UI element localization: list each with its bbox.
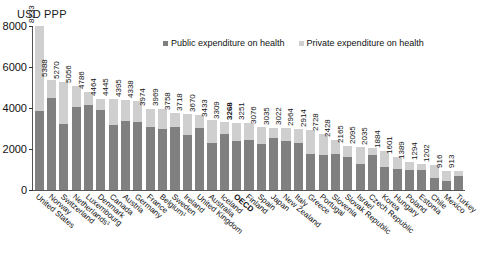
stacked-bar[interactable]: 3974 xyxy=(146,109,155,190)
bar-value-label: 2914 xyxy=(300,109,308,127)
stacked-bar[interactable]: 3076 xyxy=(257,127,266,190)
bar-slot[interactable]: 4786 xyxy=(82,26,94,190)
x-axis-line xyxy=(32,190,465,191)
stacked-bar[interactable]: 2095 xyxy=(356,147,365,190)
bar-slot[interactable]: 5388 xyxy=(45,26,57,190)
stacked-bar[interactable]: 916 xyxy=(442,171,451,190)
bar-slot[interactable]: 4445 xyxy=(107,26,119,190)
bar-slot[interactable]: 2165 xyxy=(342,26,354,190)
stacked-bar[interactable]: 5270 xyxy=(59,82,68,190)
bar-slot[interactable]: 4395 xyxy=(119,26,131,190)
stacked-bar[interactable]: 3969 xyxy=(158,109,167,190)
bar-slot[interactable]: 2095 xyxy=(354,26,366,190)
stacked-bar[interactable]: 5388 xyxy=(47,80,56,190)
stacked-bar[interactable]: 3670 xyxy=(195,115,204,190)
bar-value-label: 3309 xyxy=(213,101,221,119)
bar-segment-public xyxy=(195,128,204,190)
bar-value-label: 3268 xyxy=(226,102,234,120)
x-axis-category-label: Turkey xyxy=(454,193,478,215)
stacked-bar[interactable]: 1884 xyxy=(380,151,389,190)
bar-slot[interactable]: 2035 xyxy=(366,26,378,190)
bar-value-label: 2165 xyxy=(337,125,345,143)
bar-slot[interactable]: 4338 xyxy=(132,26,144,190)
stacked-bar[interactable]: 8233 xyxy=(35,26,44,190)
stacked-bar[interactable]: 2428 xyxy=(331,140,340,190)
bar-slot[interactable]: 4464 xyxy=(95,26,107,190)
stacked-bar[interactable]: 1294 xyxy=(417,163,426,190)
stacked-bar[interactable]: 913 xyxy=(454,171,463,190)
x-label-slot: Israel xyxy=(354,192,366,262)
bar-value-label: 1294 xyxy=(411,143,419,161)
bar-slot[interactable]: 2428 xyxy=(329,26,341,190)
stacked-bar[interactable]: 2165 xyxy=(343,146,352,190)
bar-segment-public xyxy=(35,111,44,190)
bar-slot[interactable]: 1389 xyxy=(403,26,415,190)
bar-value-label: 2035 xyxy=(361,128,369,146)
bar-slot[interactable]: 2728 xyxy=(317,26,329,190)
bar-segment-private xyxy=(146,109,155,127)
bar-segment-public xyxy=(405,170,414,190)
x-label-slot: Slovenia xyxy=(329,192,341,262)
bar-value-label: 4338 xyxy=(127,80,135,98)
bar-segment-public xyxy=(59,124,68,190)
stacked-bar[interactable]: 3035 xyxy=(269,128,278,190)
bar-slot[interactable]: 3974 xyxy=(144,26,156,190)
bar-segment-private xyxy=(121,100,130,121)
bar-slot[interactable]: 2914 xyxy=(305,26,317,190)
bar-segment-private xyxy=(207,120,216,143)
x-label-slot: Portugal xyxy=(317,192,329,262)
stacked-bar[interactable]: 2728 xyxy=(319,134,328,190)
stacked-bar[interactable]: 1202 xyxy=(430,165,439,190)
bar-slot[interactable]: 5270 xyxy=(58,26,70,190)
stacked-bar[interactable]: 3022 xyxy=(281,128,290,190)
bar-segment-public xyxy=(133,122,142,190)
stacked-bar[interactable]: 2964 xyxy=(294,129,303,190)
bar-value-label: 3718 xyxy=(176,93,184,111)
x-label-slot: Japan xyxy=(268,192,280,262)
x-label-slot: Finland xyxy=(243,192,255,262)
bar-segment-public xyxy=(220,134,229,190)
bar-slot[interactable]: 1884 xyxy=(379,26,391,190)
bar-slot[interactable]: 5056 xyxy=(70,26,82,190)
bar-slot[interactable]: 2964 xyxy=(292,26,304,190)
x-label-slot: Denmark xyxy=(95,192,107,262)
stacked-bar[interactable]: 1601 xyxy=(393,157,402,190)
stacked-bar[interactable]: 3309 xyxy=(220,122,229,190)
stacked-bar[interactable]: 1389 xyxy=(405,162,414,190)
bar-segment-public xyxy=(109,125,118,190)
bar-segment-public xyxy=(281,141,290,190)
bar-segment-public xyxy=(269,138,278,190)
bar-segment-public xyxy=(454,176,463,190)
x-label-slot: Czech Republic xyxy=(366,192,378,262)
x-label-slot: Poland xyxy=(403,192,415,262)
stacked-bar[interactable]: 4395 xyxy=(121,100,130,190)
bar-segment-public xyxy=(442,181,451,190)
bar-segment-private xyxy=(306,130,315,154)
x-label-slot: Korea xyxy=(379,192,391,262)
stacked-bar[interactable]: 4786 xyxy=(84,92,93,190)
bar-segment-public xyxy=(72,107,81,190)
bar-segment-private xyxy=(232,123,241,141)
y-axis-unit-label: USD PPP xyxy=(17,8,67,20)
stacked-bar[interactable]: 3758 xyxy=(170,113,179,190)
bar-segment-public xyxy=(183,135,192,190)
bar-slot[interactable]: 8233 xyxy=(33,26,45,190)
bar-slot[interactable]: 1294 xyxy=(416,26,428,190)
stacked-bar[interactable]: 3268 xyxy=(232,123,241,190)
bar-slot[interactable]: 1601 xyxy=(391,26,403,190)
bar-value-label: 4464 xyxy=(90,78,98,96)
stacked-bar[interactable]: 4445 xyxy=(109,99,118,190)
stacked-bar[interactable]: 3251 xyxy=(244,123,253,190)
stacked-bar[interactable]: 5056 xyxy=(72,86,81,190)
cut-off-header-strip: · · · · · · · · · · · · · · · xyxy=(0,0,467,7)
stacked-bar[interactable]: 4464 xyxy=(96,99,105,191)
x-label-slot: Estonia xyxy=(416,192,428,262)
bar-slot[interactable]: 913 xyxy=(453,26,465,190)
stacked-bar[interactable]: 2035 xyxy=(368,148,377,190)
bar-segment-public xyxy=(232,141,241,190)
stacked-bar[interactable]: 4338 xyxy=(133,101,142,190)
bar-segment-private xyxy=(109,99,118,125)
stacked-bar[interactable]: 2914 xyxy=(306,130,315,190)
stacked-bar[interactable]: 3433 xyxy=(207,120,216,190)
stacked-bar[interactable]: 3718 xyxy=(183,114,192,190)
